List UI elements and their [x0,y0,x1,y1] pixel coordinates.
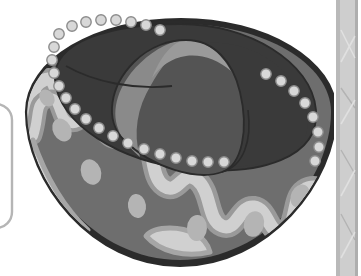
pompom-ball [123,138,133,148]
pompom-ball [141,20,151,30]
pompom-ball [96,15,106,25]
pompom-ball [276,76,286,86]
pompom-ball [155,149,165,159]
sombrero-illustration [0,0,361,276]
pompom-ball [49,68,59,78]
pompom-ball [261,69,271,79]
page-edge-line-right [355,0,358,276]
pompom-ball [54,29,64,39]
pompom-ball [111,15,121,25]
pompom-ball [61,93,71,103]
pompom-ball [300,98,310,108]
pompom-ball [139,144,149,154]
pompom-ball [81,17,91,27]
pompom-ball [67,21,77,31]
pompom-ball [94,123,104,133]
pompom-ball [219,157,229,167]
pompom-ball [81,114,91,124]
pompom-ball [155,25,165,35]
pompom-ball [308,112,318,122]
pompom-ball [203,157,213,167]
page-edge-strip [334,0,361,276]
pompom-ball [49,42,59,52]
pompom-ball [54,81,64,91]
pompom-ball [126,17,136,27]
pompom-ball [314,142,324,152]
pompom-ball [47,55,57,65]
pompom-ball [70,104,80,114]
illustration-canvas: Sombrero hat illustration Grayscale clip… [0,0,361,276]
pompom-ball [187,156,197,166]
pompom-ball [310,156,320,166]
pompom-ball [289,86,299,96]
pompom-ball [171,153,181,163]
page-edge-line-left [336,0,340,276]
pompom-ball [313,127,323,137]
pompom-ball [108,131,118,141]
